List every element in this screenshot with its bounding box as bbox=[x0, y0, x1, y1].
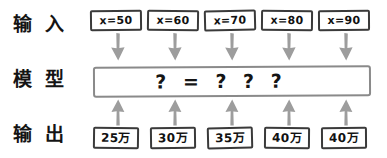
input-box-5: x=90 bbox=[318, 10, 370, 31]
arrow-down-icon-1 bbox=[110, 33, 126, 61]
output-box-3: 35万 bbox=[207, 126, 254, 149]
arrow-up-icon-2 bbox=[167, 99, 183, 126]
model-box: ? = ? ? ? bbox=[93, 65, 371, 98]
arrow-up-icon-1 bbox=[110, 99, 126, 126]
output-box-2: 30万 bbox=[150, 127, 196, 150]
arrow-down-icon-5 bbox=[338, 33, 354, 61]
row-label-output: 输 出 bbox=[13, 125, 67, 144]
arrow-up-icon-5 bbox=[338, 99, 354, 126]
input-box-3: x=70 bbox=[204, 9, 256, 31]
row-label-input: 输 入 bbox=[13, 15, 67, 34]
output-box-1: 25万 bbox=[93, 127, 139, 150]
input-box-1: x=50 bbox=[90, 10, 142, 32]
model-flow-diagram: 输 入 模 型 输 出 x=50 x=60 x=70 x=80 x=90 ? =… bbox=[0, 0, 387, 158]
arrow-down-icon-2 bbox=[167, 33, 183, 61]
row-label-model: 模 型 bbox=[13, 70, 67, 89]
input-box-2: x=60 bbox=[147, 10, 199, 32]
arrow-down-icon-3 bbox=[224, 33, 240, 61]
arrow-up-icon-3 bbox=[224, 99, 240, 126]
output-box-4: 40万 bbox=[264, 127, 310, 149]
input-box-4: x=80 bbox=[261, 10, 313, 31]
output-box-5: 40万 bbox=[321, 127, 367, 149]
arrow-up-icon-4 bbox=[281, 99, 297, 126]
model-expression: ? = ? ? ? bbox=[155, 72, 287, 92]
arrow-down-icon-4 bbox=[281, 33, 297, 61]
